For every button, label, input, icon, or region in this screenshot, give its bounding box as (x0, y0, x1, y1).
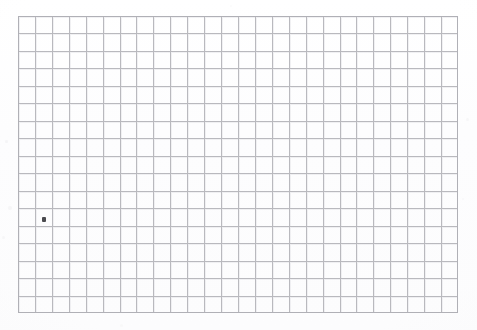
paper-speck (8, 206, 12, 210)
grid-border (18, 16, 458, 313)
scanned-page (0, 0, 477, 330)
grid-lines (18, 16, 458, 313)
paper-speck (466, 118, 469, 121)
paper-speck (5, 140, 8, 143)
grid-ghost-lines (18, 16, 458, 313)
paper-speck (462, 198, 464, 200)
paper-speck (230, 5, 232, 7)
graph-paper-grid (18, 16, 458, 313)
paper-speck (120, 324, 123, 327)
ink-dot-mark (42, 217, 46, 222)
paper-speck (2, 236, 5, 239)
